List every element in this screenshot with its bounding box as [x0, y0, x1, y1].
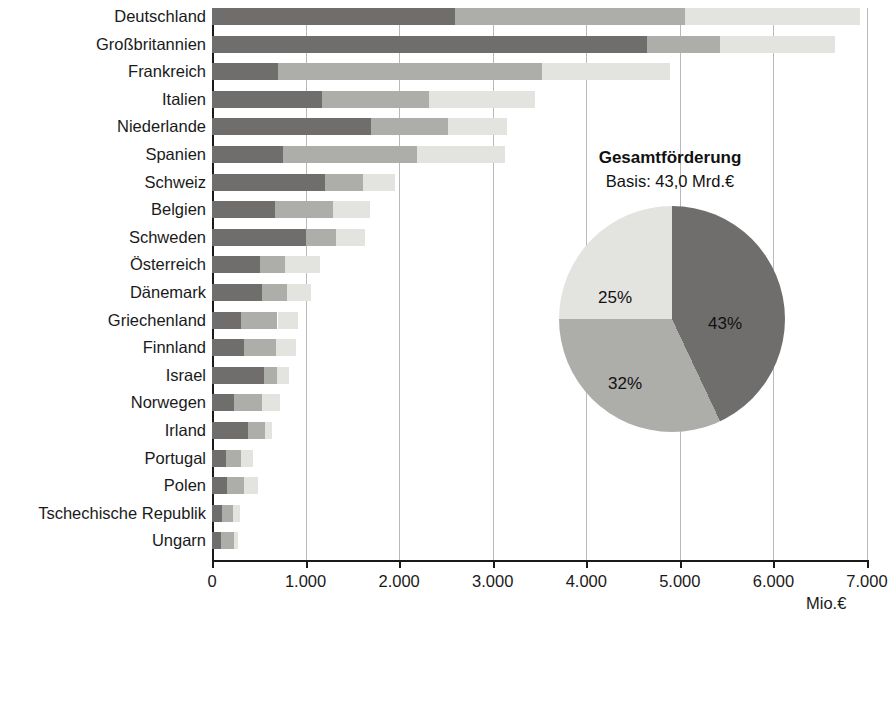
bar-segment — [371, 118, 448, 135]
bar-segment — [647, 36, 720, 53]
category-label: Großbritannien — [0, 36, 206, 53]
bar-segment — [287, 284, 311, 301]
pie-subtitle: Basis: 43,0 Mrd.€ — [540, 172, 800, 191]
category-label: Italien — [0, 91, 206, 108]
x-axis-tick-label: 1.000 — [266, 572, 346, 591]
bar-segment — [448, 118, 507, 135]
x-axis-tick-label: 0 — [172, 572, 252, 591]
category-label: Griechenland — [0, 312, 206, 329]
bar-segment — [260, 256, 286, 273]
category-label: Niederlande — [0, 118, 206, 135]
bar-segment — [278, 63, 543, 80]
x-axis-tick — [306, 560, 308, 568]
bar-segment — [212, 256, 260, 273]
bar-segment — [277, 367, 289, 384]
category-label: Israel — [0, 367, 206, 384]
x-axis-tick — [212, 560, 214, 568]
bar-segment — [241, 312, 277, 329]
x-axis-tick — [399, 560, 401, 568]
x-axis-tick-label: 4.000 — [546, 572, 626, 591]
bar-segment — [306, 229, 336, 246]
bar-segment — [212, 284, 262, 301]
bar-segment — [262, 394, 281, 411]
bar-segment — [262, 284, 287, 301]
x-axis-tick — [867, 560, 869, 568]
bar-segment — [212, 8, 455, 25]
bar-segment — [234, 394, 262, 411]
x-axis-tick-label: 3.000 — [453, 572, 533, 591]
bar-segment — [212, 36, 647, 53]
category-label: Österreich — [0, 256, 206, 273]
x-axis-tick-label: 5.000 — [640, 572, 720, 591]
x-axis-tick — [586, 560, 588, 568]
x-axis-tick-label: 6.000 — [733, 572, 813, 591]
bar-segment — [233, 505, 240, 522]
bar-segment — [234, 532, 239, 549]
bar-segment — [212, 63, 278, 80]
category-label: Deutschland — [0, 8, 206, 25]
bar-segment — [227, 477, 244, 494]
bar-segment — [241, 450, 253, 467]
bar-segment — [212, 505, 222, 522]
bar-segment — [212, 146, 283, 163]
bar-segment — [333, 201, 370, 218]
category-label: Portugal — [0, 450, 206, 467]
x-axis-unit-label: Mio.€ — [806, 594, 846, 613]
bar-segment — [221, 532, 233, 549]
inset-pie-chart: Gesamtförderung Basis: 43,0 Mrd.€ 43% 32… — [540, 148, 840, 458]
bar-segment — [248, 422, 266, 439]
bar-segment — [212, 91, 322, 108]
x-axis-line — [212, 560, 868, 562]
bar-segment — [212, 174, 325, 191]
bar-segment — [244, 477, 258, 494]
bar-segment — [720, 36, 835, 53]
bar-segment — [283, 146, 417, 163]
bar-segment — [275, 201, 333, 218]
x-axis-tick — [680, 560, 682, 568]
pie-slice-label-3: 25% — [598, 288, 632, 308]
x-axis-tick — [773, 560, 775, 568]
bar-segment — [212, 312, 241, 329]
bar-segment — [429, 91, 535, 108]
category-label: Norwegen — [0, 394, 206, 411]
bar-segment — [322, 91, 429, 108]
category-label: Finnland — [0, 339, 206, 356]
bar-segment — [265, 422, 272, 439]
bar-segment — [455, 8, 684, 25]
pie-title: Gesamtförderung — [540, 148, 800, 168]
bar-segment — [244, 339, 276, 356]
bar-segment — [212, 367, 264, 384]
gridline — [867, 8, 868, 560]
bar-segment — [325, 174, 362, 191]
bar-segment — [212, 477, 227, 494]
bar-segment — [212, 422, 248, 439]
x-axis-tick-label: 2.000 — [359, 572, 439, 591]
bar-segment — [212, 339, 244, 356]
pie-slice-label-2: 32% — [608, 374, 642, 394]
bar-segment — [212, 394, 234, 411]
bar-segment — [285, 256, 320, 273]
bar-segment — [212, 229, 306, 246]
category-label: Irland — [0, 422, 206, 439]
category-label: Schweiz — [0, 174, 206, 191]
x-axis-tick-label: 7.000 — [827, 572, 896, 591]
bar-segment — [276, 339, 297, 356]
category-label: Belgien — [0, 201, 206, 218]
bar-segment — [222, 505, 232, 522]
bar-segment — [363, 174, 395, 191]
bar-segment — [264, 367, 276, 384]
category-label: Tschechische Republik — [0, 505, 206, 522]
stacked-bar-chart: DeutschlandGroßbritannienFrankreichItali… — [0, 0, 896, 708]
category-label: Spanien — [0, 146, 206, 163]
category-label: Polen — [0, 477, 206, 494]
category-label: Dänemark — [0, 284, 206, 301]
x-axis-tick — [493, 560, 495, 568]
bar-segment — [278, 312, 299, 329]
bar-segment — [212, 450, 226, 467]
category-label: Ungarn — [0, 532, 206, 549]
bar-segment — [212, 532, 221, 549]
pie-slice-label-1: 43% — [708, 314, 742, 334]
category-label: Schweden — [0, 229, 206, 246]
bar-segment — [212, 118, 371, 135]
bar-segment — [336, 229, 365, 246]
